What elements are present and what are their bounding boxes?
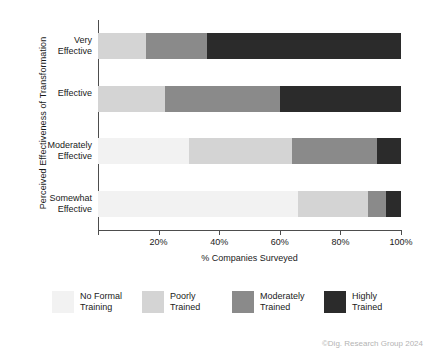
bar-segment[interactable] bbox=[298, 191, 368, 217]
footer-credit: ©Dig. Research Group 2024 bbox=[322, 339, 423, 348]
bar-segment[interactable] bbox=[98, 138, 189, 164]
chart-legend: No Formal TrainingPoorly TrainedModerate… bbox=[52, 291, 412, 317]
legend-item[interactable]: Moderately Trained bbox=[232, 291, 305, 317]
x-axis-tick bbox=[340, 230, 341, 235]
category-label-line: Somewhat bbox=[49, 193, 92, 203]
bar-segment[interactable] bbox=[98, 191, 298, 217]
legend-item[interactable]: Highly Trained bbox=[324, 291, 382, 317]
x-axis-tick-label: 100% bbox=[381, 237, 421, 247]
x-axis-tick-label: 20% bbox=[139, 237, 179, 247]
category-label-line: Effective bbox=[58, 88, 92, 98]
bar-segment[interactable] bbox=[386, 191, 401, 217]
bar-segment[interactable] bbox=[207, 33, 401, 59]
bar-segment[interactable] bbox=[98, 33, 146, 59]
bar-row[interactable] bbox=[98, 138, 401, 164]
x-axis-tick bbox=[98, 230, 99, 235]
bar-row[interactable] bbox=[98, 191, 401, 217]
legend-label: No Formal Training bbox=[80, 291, 122, 313]
bar-row[interactable] bbox=[98, 33, 401, 59]
bar-segment[interactable] bbox=[189, 138, 292, 164]
legend-swatch bbox=[52, 291, 74, 313]
x-axis-tick-label: 40% bbox=[199, 237, 239, 247]
x-axis-tick-label: 80% bbox=[320, 237, 360, 247]
x-axis-tick bbox=[159, 230, 160, 235]
bar-segment[interactable] bbox=[280, 86, 401, 112]
legend-swatch bbox=[232, 291, 254, 313]
x-axis-tick bbox=[280, 230, 281, 235]
legend-swatch bbox=[324, 291, 346, 313]
bar-segment[interactable] bbox=[368, 191, 386, 217]
legend-swatch bbox=[142, 291, 164, 313]
category-label-line: Moderately bbox=[47, 140, 92, 150]
plot-area: % Companies Surveyed 20%40%60%80%100% bbox=[98, 20, 401, 230]
legend-item[interactable]: Poorly Trained bbox=[142, 291, 200, 317]
y-axis-category-label: VeryEffective bbox=[2, 35, 92, 57]
legend-label: Highly Trained bbox=[352, 291, 382, 313]
category-label-line: Effective bbox=[58, 151, 92, 161]
bar-segment[interactable] bbox=[165, 86, 280, 112]
bar-segment[interactable] bbox=[146, 33, 207, 59]
category-label-line: Effective bbox=[58, 204, 92, 214]
y-axis-category-label: ModeratelyEffective bbox=[2, 140, 92, 162]
x-axis-tick-label: 60% bbox=[260, 237, 300, 247]
bar-segment[interactable] bbox=[292, 138, 377, 164]
legend-item[interactable]: No Formal Training bbox=[52, 291, 122, 317]
category-label-line: Effective bbox=[58, 46, 92, 56]
legend-label: Poorly Trained bbox=[170, 291, 200, 313]
x-axis-title: % Companies Surveyed bbox=[98, 253, 401, 263]
x-axis-line bbox=[98, 230, 401, 231]
bar-segment[interactable] bbox=[98, 86, 165, 112]
y-axis-category-label: SomewhatEffective bbox=[2, 193, 92, 215]
category-label-line: Very bbox=[74, 35, 92, 45]
legend-label: Moderately Trained bbox=[260, 291, 305, 313]
bar-segment[interactable] bbox=[377, 138, 401, 164]
y-axis-category-label: Effective bbox=[2, 88, 92, 99]
x-axis-tick bbox=[219, 230, 220, 235]
bar-row[interactable] bbox=[98, 86, 401, 112]
x-axis-tick bbox=[401, 230, 402, 235]
